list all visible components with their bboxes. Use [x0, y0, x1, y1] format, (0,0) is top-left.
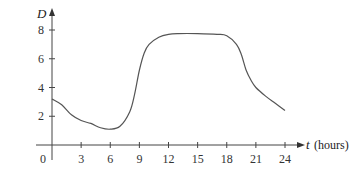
y-tick-label: 4: [38, 81, 44, 95]
y-tick-label: 6: [38, 52, 44, 66]
x-tick-label: 3: [78, 152, 84, 166]
origin-label: 0: [40, 152, 46, 166]
x-tick-label: 24: [279, 152, 291, 166]
x-axis-label-variable: t: [306, 137, 310, 152]
y-tick-label: 2: [38, 109, 44, 123]
x-tick-label: 12: [163, 152, 175, 166]
y-tick-label: 8: [38, 23, 44, 37]
data-line-D: [52, 34, 285, 130]
x-axis-label-unit: (hours): [314, 138, 349, 152]
x-tick-label: 9: [136, 152, 142, 166]
x-tick-label: 18: [221, 152, 233, 166]
x-tick-label: 15: [192, 152, 204, 166]
line-chart: 36912151821242468 D t (hours) 0: [0, 0, 350, 169]
x-axis-arrow-icon: [297, 142, 305, 148]
x-tick-label: 6: [107, 152, 113, 166]
y-axis-arrow-icon: [49, 8, 55, 16]
axes: [36, 8, 305, 160]
y-axis-label: D: [36, 6, 47, 21]
x-tick-label: 21: [250, 152, 262, 166]
